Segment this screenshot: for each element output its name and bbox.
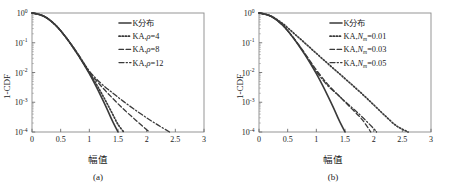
y-tick-label: 100 [244, 8, 255, 18]
plot-area-b: 00.511.522.5310010-110-210-310-4K分布KA,Nm… [233, 0, 449, 150]
x-tick-label: 2.5 [397, 135, 407, 144]
chart-panel-b: 1-CDF 00.511.522.5310010-110-210-310-4K分… [225, 0, 449, 193]
y-tick-label: 10-2 [15, 67, 28, 77]
legend-label: K分布 [133, 18, 155, 28]
x-tick-label: 1.5 [340, 135, 350, 144]
data-series-line [259, 13, 345, 132]
x-tick-label: 1 [314, 135, 318, 144]
plot-svg-b: 00.511.522.5310010-110-210-310-4K分布KA,Nm… [233, 0, 449, 150]
x-tick-label: 0.5 [283, 135, 293, 144]
y-tick-label: 10-3 [242, 97, 255, 107]
y-tick-label: 100 [17, 8, 28, 18]
data-series-line [259, 13, 377, 132]
y-tick-label: 10-4 [242, 127, 255, 137]
y-tick-label: 10-1 [242, 37, 255, 47]
data-series-line [32, 13, 118, 132]
x-tick-label: 0 [257, 135, 261, 144]
data-series-line [32, 13, 170, 132]
y-tick-label: 10-4 [15, 127, 28, 137]
x-tick-label: 3 [429, 135, 433, 144]
y-tick-label: 10-2 [242, 67, 255, 77]
legend-label: KA,Nm=0.03 [344, 45, 387, 55]
plot-svg-a: 00.511.522.5310010-110-210-310-4K分布KA,ρ=… [0, 0, 224, 150]
legend-label: KA,ρ=8 [133, 45, 160, 54]
chart-panel-a: 1-CDF 00.511.522.5310010-110-210-310-4K分… [0, 0, 224, 193]
x-tick-label: 2 [372, 135, 376, 144]
x-tick-label: 2.5 [170, 135, 180, 144]
x-axis-label-b: 幅值 [221, 152, 445, 166]
y-tick-label: 10-1 [15, 37, 28, 47]
plot-area-a: 00.511.522.5310010-110-210-310-4K分布KA,ρ=… [0, 0, 224, 150]
x-axis-label-a: 幅值 [0, 152, 210, 166]
legend-label: KA,ρ=12 [133, 59, 164, 68]
data-series-line [259, 13, 408, 132]
panel-caption-a: (a) [0, 172, 210, 182]
y-tick-label: 10-3 [15, 97, 28, 107]
x-tick-label: 1.5 [113, 135, 123, 144]
x-tick-label: 2 [145, 135, 149, 144]
legend-label: KA,Nm=0.01 [344, 32, 387, 42]
panel-caption-b: (b) [221, 172, 445, 182]
x-tick-label: 3 [202, 135, 206, 144]
legend-label: KA,Nm=0.05 [344, 59, 387, 69]
x-tick-label: 0 [30, 135, 34, 144]
legend-label: KA,ρ=4 [133, 32, 161, 41]
x-tick-label: 0.5 [56, 135, 66, 144]
legend-label: K分布 [344, 18, 366, 28]
x-tick-label: 1 [87, 135, 91, 144]
